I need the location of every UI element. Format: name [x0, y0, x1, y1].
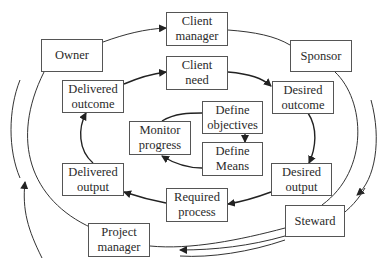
edge-delivered-outcome-client-need [124, 72, 166, 84]
edge-required-process-delivered-output [124, 192, 166, 203]
edge-delivered-output-delivered-outcome [81, 113, 93, 163]
edge-steward-project-manager [150, 228, 285, 247]
node-monitor-progress: Monitor progress [129, 121, 191, 155]
edge-client-manager-sponsor [228, 30, 290, 45]
edge-desired-output-required-process [228, 192, 271, 204]
node-client-need: Client need [166, 56, 228, 90]
lifecycle-diagram: Owner Client manager Sponsor Steward Pro… [0, 0, 387, 265]
edge-client-need-desired-outcome [228, 72, 271, 86]
flow-arc-bottom-lower [180, 240, 285, 256]
edge-define-means-monitor-progress [162, 156, 202, 168]
node-project-manager: Project manager [88, 223, 150, 257]
node-define-objectives: Define objectives [202, 101, 263, 134]
node-required-process: Required process [166, 188, 228, 222]
node-sponsor: Sponsor [290, 40, 352, 72]
edge-monitor-progress-define-objectives [162, 113, 202, 121]
flow-arrow-left [24, 182, 42, 258]
node-owner: Owner [41, 39, 103, 72]
node-delivered-output: Delivered output [62, 163, 124, 196]
flow-arrow-bottom [180, 236, 285, 250]
node-steward: Steward [285, 205, 345, 237]
node-desired-outcome: Desired outcome [272, 81, 334, 114]
edge-desired-outcome-desired-output [308, 113, 315, 163]
node-delivered-outcome: Delivered outcome [62, 80, 124, 113]
flow-arrow-right [357, 100, 376, 195]
node-desired-output: Desired output [271, 163, 332, 196]
node-define-means: Define Means [202, 142, 263, 176]
flow-arc-left [11, 80, 20, 178]
node-client-manager: Client manager [166, 12, 228, 46]
edge-owner-client-manager [103, 28, 166, 42]
